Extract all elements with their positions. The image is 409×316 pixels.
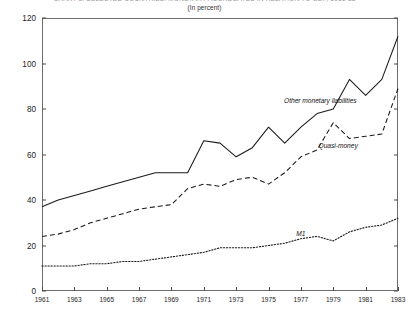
series-label: Quasi-money	[319, 142, 358, 149]
y-axis-tick-label: 60	[27, 150, 36, 159]
chart-figure: CHART 3. SELECTED COUNTRIES: MONETARY AG…	[0, 0, 409, 316]
series-line	[42, 218, 398, 266]
x-axis-tick-label: 1963	[67, 296, 82, 303]
y-axis-tick-label: 80	[27, 105, 36, 114]
y-axis-tick-label: 40	[27, 196, 36, 205]
x-axis-tick-label: 1979	[326, 296, 341, 303]
x-axis-tick-label: 1971	[196, 296, 211, 303]
chart-subtitle: (In percent)	[0, 4, 409, 11]
x-axis-tick-label: 1975	[261, 296, 276, 303]
y-axis-tick-label: 120	[22, 14, 36, 23]
y-axis-tick-label: 20	[27, 241, 36, 250]
series-label: Other monetary liabilities	[284, 96, 357, 103]
x-axis-tick-mark	[398, 287, 399, 291]
chart-title-clipped: CHART 3. SELECTED COUNTRIES: MONETARY AG…	[0, 0, 409, 2]
series-lines	[42, 18, 398, 291]
x-axis-tick-label: 1983	[391, 296, 406, 303]
x-axis-tick-label: 1967	[132, 296, 147, 303]
y-axis-tick-label: 100	[22, 59, 36, 68]
series-line	[42, 36, 398, 207]
series-label: M1	[296, 229, 305, 236]
plot-area: 0204060801001201961196319651967196919711…	[42, 18, 398, 291]
x-axis-tick-label: 1981	[358, 296, 373, 303]
series-line	[42, 89, 398, 237]
y-axis-tick-label: 0	[31, 287, 36, 296]
x-axis-tick-label: 1977	[294, 296, 309, 303]
x-axis-tick-label: 1973	[229, 296, 244, 303]
x-axis-tick-label: 1965	[99, 296, 114, 303]
x-axis-tick-label: 1969	[164, 296, 179, 303]
x-axis-tick-label: 1961	[35, 296, 50, 303]
